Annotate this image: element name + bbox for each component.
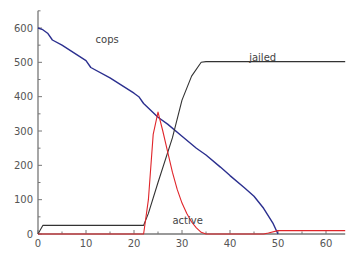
series-labels: copsjailedactive [96,34,277,225]
x-tick-label: 30 [176,238,189,249]
x-tick-label: 0 [35,238,41,249]
series-jailed-label: jailed [248,52,276,63]
series-cops-label: cops [96,34,119,45]
series-group [38,28,345,234]
x-tick-label: 50 [272,238,285,249]
y-tick-label: 300 [14,126,33,137]
series-jailed-line [38,62,345,234]
y-tick-label: 500 [14,57,33,68]
y-tick-label: 200 [14,160,33,171]
line-chart: 01002003004005006000102030405060 copsjai… [0,0,359,264]
y-tick-label: 600 [14,23,33,34]
y-tick-label: 400 [14,91,33,102]
y-tick-label: 0 [27,229,33,240]
y-tick-label: 100 [14,194,33,205]
x-tick-label: 40 [224,238,237,249]
x-tick-label: 20 [128,238,141,249]
series-cops-line [38,28,278,234]
x-tick-label: 10 [80,238,93,249]
series-active-label: active [172,215,202,226]
x-tick-label: 60 [320,238,333,249]
